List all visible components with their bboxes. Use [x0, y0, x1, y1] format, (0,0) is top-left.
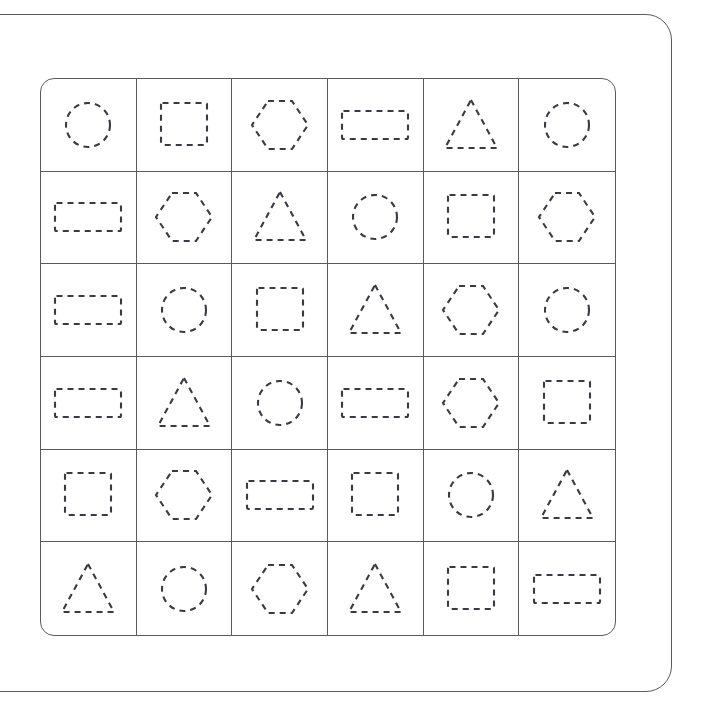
- shape-cell[interactable]: [137, 79, 233, 172]
- shape-cell[interactable]: [41, 450, 137, 543]
- shape-cell[interactable]: [519, 542, 615, 635]
- circle-shape-icon: [51, 88, 125, 162]
- shape-cell[interactable]: [328, 79, 424, 172]
- shape-cell[interactable]: [232, 79, 328, 172]
- shape-grid-card: [40, 78, 616, 636]
- hexagon-shape-icon: [530, 180, 604, 254]
- shape-cell[interactable]: [232, 542, 328, 635]
- shape-cell[interactable]: [137, 357, 233, 450]
- hexagon-shape-icon: [434, 273, 508, 347]
- circle-shape-icon: [338, 180, 412, 254]
- shape-cell[interactable]: [424, 264, 520, 357]
- hexagon-shape-icon: [243, 552, 317, 626]
- worksheet-page: [0, 0, 706, 712]
- shape-cell[interactable]: [328, 172, 424, 265]
- shape-cell[interactable]: [232, 172, 328, 265]
- shape-grid: [41, 79, 615, 635]
- shape-cell[interactable]: [328, 542, 424, 635]
- circle-shape-icon: [147, 273, 221, 347]
- shape-cell[interactable]: [232, 357, 328, 450]
- shape-cell[interactable]: [41, 79, 137, 172]
- hexagon-shape-icon: [243, 88, 317, 162]
- triangle-shape-icon: [530, 458, 604, 532]
- shape-cell[interactable]: [519, 79, 615, 172]
- shape-cell[interactable]: [328, 264, 424, 357]
- rectangle-shape-icon: [51, 366, 125, 440]
- shape-cell[interactable]: [41, 542, 137, 635]
- rectangle-shape-icon: [51, 273, 125, 347]
- shape-cell[interactable]: [41, 264, 137, 357]
- circle-shape-icon: [530, 273, 604, 347]
- square-shape-icon: [338, 458, 412, 532]
- shape-cell[interactable]: [328, 450, 424, 543]
- shape-cell[interactable]: [519, 172, 615, 265]
- shape-cell[interactable]: [41, 357, 137, 450]
- square-shape-icon: [51, 458, 125, 532]
- shape-cell[interactable]: [41, 172, 137, 265]
- square-shape-icon: [147, 88, 221, 162]
- rectangle-shape-icon: [530, 552, 604, 626]
- square-shape-icon: [243, 273, 317, 347]
- triangle-shape-icon: [338, 552, 412, 626]
- shape-cell[interactable]: [424, 542, 520, 635]
- shape-cell[interactable]: [424, 357, 520, 450]
- shape-cell[interactable]: [137, 172, 233, 265]
- triangle-shape-icon: [243, 180, 317, 254]
- shape-cell[interactable]: [137, 264, 233, 357]
- shape-cell[interactable]: [232, 450, 328, 543]
- triangle-shape-icon: [51, 552, 125, 626]
- shape-cell[interactable]: [424, 172, 520, 265]
- shape-cell[interactable]: [424, 79, 520, 172]
- triangle-shape-icon: [338, 273, 412, 347]
- circle-shape-icon: [243, 366, 317, 440]
- shape-cell[interactable]: [328, 357, 424, 450]
- shape-cell[interactable]: [519, 450, 615, 543]
- hexagon-shape-icon: [147, 180, 221, 254]
- square-shape-icon: [434, 180, 508, 254]
- rectangle-shape-icon: [51, 180, 125, 254]
- circle-shape-icon: [530, 88, 604, 162]
- triangle-shape-icon: [434, 88, 508, 162]
- shape-cell[interactable]: [137, 450, 233, 543]
- hexagon-shape-icon: [147, 458, 221, 532]
- hexagon-shape-icon: [434, 366, 508, 440]
- circle-shape-icon: [147, 552, 221, 626]
- rectangle-shape-icon: [338, 88, 412, 162]
- rectangle-shape-icon: [338, 366, 412, 440]
- triangle-shape-icon: [147, 366, 221, 440]
- shape-cell[interactable]: [519, 264, 615, 357]
- circle-shape-icon: [434, 458, 508, 532]
- rectangle-shape-icon: [243, 458, 317, 532]
- square-shape-icon: [434, 552, 508, 626]
- square-shape-icon: [530, 366, 604, 440]
- shape-cell[interactable]: [424, 450, 520, 543]
- shape-cell[interactable]: [519, 357, 615, 450]
- shape-cell[interactable]: [232, 264, 328, 357]
- shape-cell[interactable]: [137, 542, 233, 635]
